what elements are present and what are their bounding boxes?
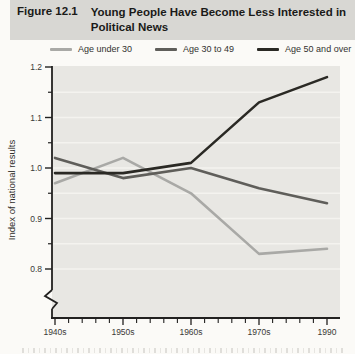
y-tick-label-2: 1.0 [30, 163, 42, 173]
y-tick-label-3: 0.9 [30, 214, 42, 224]
chart-svg: 1.21.11.00.90.81940s1950s1960s1970s1990I… [0, 60, 355, 348]
chart-area: 1.21.11.00.90.81940s1950s1960s1970s1990I… [0, 60, 355, 348]
y-tick-label-0: 1.2 [30, 62, 42, 72]
legend-label-1: Age 30 to 49 [183, 44, 234, 54]
legend-item-2: Age 50 and over [257, 44, 351, 54]
x-tick-label-1: 1950s [111, 327, 134, 337]
legend-label-0: Age under 30 [78, 44, 132, 54]
legend: Age under 30Age 30 to 49Age 50 and over [50, 42, 355, 56]
figure-label: Figure 12.1 [17, 5, 78, 17]
legend-swatch-2 [257, 48, 279, 51]
legend-swatch-0 [50, 48, 72, 51]
cutoff-caption-text [22, 348, 347, 353]
legend-swatch-1 [155, 48, 177, 51]
legend-item-1: Age 30 to 49 [155, 44, 234, 54]
x-tick-label-0: 1940s [43, 327, 66, 337]
legend-item-0: Age under 30 [50, 44, 132, 54]
plot-background [52, 66, 340, 318]
legend-label-2: Age 50 and over [285, 44, 351, 54]
x-tick-label-2: 1960s [179, 327, 202, 337]
x-tick-label-3: 1970s [247, 327, 270, 337]
figure-header: Figure 12.1 Young People Have Become Les… [10, 0, 355, 40]
y-tick-label-1: 1.1 [30, 113, 42, 123]
x-tick-label-4: 1990 [318, 327, 337, 337]
y-axis-title: Index of national results [6, 140, 17, 241]
figure-title: Young People Have Become Less Interested… [91, 5, 355, 35]
figure-title-line2: Political News [91, 20, 355, 35]
y-tick-label-4: 0.8 [30, 264, 42, 274]
figure-title-line1: Young People Have Become Less Interested… [91, 5, 355, 20]
